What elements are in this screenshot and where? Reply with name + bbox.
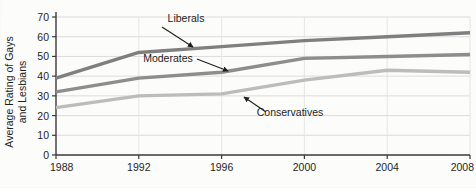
y-tick-label: 50 [37, 50, 49, 62]
series-lines [56, 33, 470, 108]
y-axis-title: Average Rating of Gays and Lesbians [3, 36, 28, 147]
series-label-moderates: Moderates [143, 52, 193, 64]
x-tick-label: 2008 [451, 161, 475, 173]
line-chart: 010203040506070198819921996200020042008 … [0, 0, 476, 188]
x-tick-label: 2000 [293, 161, 317, 173]
y-tick-label: 30 [37, 90, 49, 102]
y-tick-label: 70 [37, 11, 49, 23]
series-label-conservatives: Conservatives [257, 106, 324, 118]
annotation-arrow-moderates [197, 59, 228, 71]
series-annotations: LiberalsModeratesConservatives [143, 12, 323, 118]
annotation-arrow-conservatives [244, 97, 266, 112]
y-tick-label: 10 [37, 129, 49, 141]
x-tick-label: 1988 [50, 161, 74, 173]
x-tick-label: 2004 [376, 161, 400, 173]
y-tick-label: 20 [37, 110, 49, 122]
y-axis-title-line2: and Lesbians [16, 61, 28, 123]
series-label-liberals: Liberals [168, 12, 205, 24]
axes [52, 12, 470, 159]
x-tick-label: 1992 [127, 161, 151, 173]
chart-figure: 010203040506070198819921996200020042008 … [0, 0, 476, 188]
y-tick-label: 60 [37, 31, 49, 43]
y-axis-title-line1: Average Rating of Gays [3, 36, 15, 147]
x-tick-label: 1996 [210, 161, 234, 173]
y-tick-label: 0 [43, 149, 49, 161]
y-tick-label: 40 [37, 70, 49, 82]
